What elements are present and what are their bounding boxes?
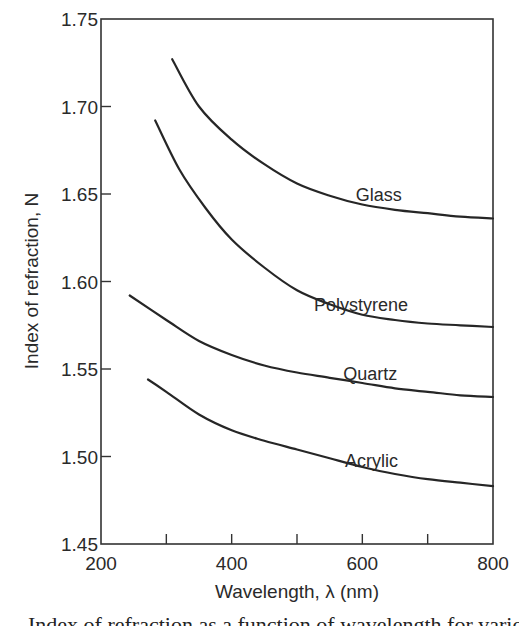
- series-label-acrylic: Acrylic: [345, 451, 398, 471]
- y-tick-label: 1.65: [61, 184, 98, 205]
- series-label-quartz: Quartz: [343, 364, 397, 384]
- x-tick-label: 400: [216, 553, 248, 574]
- y-tick-label: 1.55: [61, 359, 98, 380]
- figure-caption: Index of refraction as a function of wav…: [28, 612, 519, 626]
- x-axis-title: Wavelength, λ (nm): [215, 581, 379, 602]
- y-axis-title: Index of refraction, N: [21, 193, 42, 369]
- y-tick-label: 1.45: [61, 534, 98, 555]
- x-axis: 200400600800: [85, 534, 509, 574]
- series-label-polystyrene: Polystyrene: [314, 295, 408, 315]
- y-tick-label: 1.50: [61, 447, 98, 468]
- x-tick-label: 200: [85, 553, 117, 574]
- plot-frame: [101, 19, 493, 544]
- x-tick-label: 600: [346, 553, 378, 574]
- refraction-index-chart: 1.451.501.551.601.651.701.75 20040060080…: [0, 0, 519, 626]
- x-tick-label: 800: [477, 553, 509, 574]
- series-line-glass: [172, 59, 493, 218]
- series-label-glass: Glass: [356, 185, 402, 205]
- y-tick-label: 1.75: [61, 9, 98, 30]
- series-line-quartz: [130, 296, 493, 398]
- y-tick-label: 1.60: [61, 272, 98, 293]
- series-line-acrylic: [148, 380, 493, 487]
- series-labels: GlassPolystyreneQuartzAcrylic: [314, 185, 408, 471]
- y-tick-label: 1.70: [61, 97, 98, 118]
- y-axis: 1.451.501.551.601.651.701.75: [61, 9, 111, 555]
- series-layer: [130, 59, 493, 486]
